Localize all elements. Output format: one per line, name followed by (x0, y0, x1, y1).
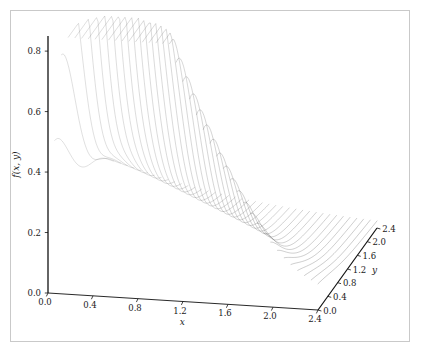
z-axis-title: f(x, y) (11, 151, 21, 179)
z-tick-label: 0.8 (27, 46, 41, 56)
z-tick-label: 0.6 (27, 107, 41, 117)
z-tick-label: 0.2 (27, 228, 41, 238)
y-tick-label: 0.8 (343, 278, 357, 288)
y-tick-label: 2.0 (372, 237, 386, 247)
y-tick-label: 0.0 (323, 306, 337, 316)
surface-plot: 0.00.20.40.60.80.00.40.81.21.62.02.40.00… (0, 0, 422, 362)
y-tick-label: 1.6 (363, 251, 377, 261)
y-axis-title: y (371, 265, 378, 275)
mesh-wireframe (55, 16, 377, 284)
x-tick-label: 1.6 (218, 308, 232, 318)
axis-titles: xyf(x, y) (11, 151, 378, 327)
x-tick-label: 2.0 (263, 311, 277, 321)
x-axis-title: x (180, 317, 185, 327)
z-tick-label: 0.4 (27, 167, 41, 177)
x-tick-label: 0.0 (38, 297, 52, 307)
y-tick-label: 1.2 (353, 265, 367, 275)
axis-lines (45, 36, 381, 313)
x-tick-label: 0.8 (128, 303, 142, 313)
axis-tick-labels: 0.00.20.40.60.80.00.40.81.21.62.02.40.00… (27, 46, 395, 324)
figure-canvas: 0.00.20.40.60.80.00.40.81.21.62.02.40.00… (0, 0, 422, 362)
x-tick-label: 1.2 (173, 306, 187, 316)
y-tick-label: 0.4 (333, 292, 347, 302)
x-tick-label: 0.4 (83, 300, 97, 310)
y-tick-label: 2.4 (382, 224, 396, 234)
x-tick-label: 2.4 (308, 314, 322, 324)
